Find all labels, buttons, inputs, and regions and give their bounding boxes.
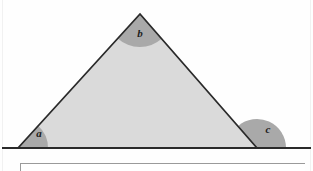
triangle-angle-diagram: a b c (0, 0, 313, 171)
caption-box-frame (20, 163, 305, 171)
angle-label-c: c (266, 123, 271, 135)
angle-label-a: a (36, 127, 42, 139)
angle-label-b: b (137, 27, 143, 39)
geometry-figure-root: a b c (0, 0, 313, 171)
